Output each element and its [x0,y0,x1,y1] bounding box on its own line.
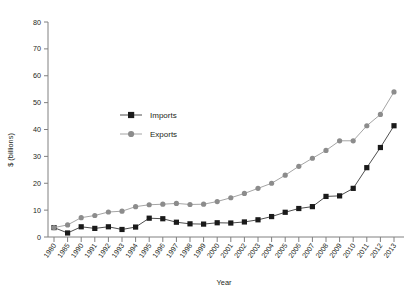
x-tick-label: 2012 [368,241,385,259]
chart-legend: ImportsExports [120,111,177,139]
y-axis: 01020304050607080 [33,18,48,242]
data-point-exports [378,112,383,117]
x-tick-label: 2008 [314,241,331,259]
data-point-exports [133,204,138,209]
data-point-exports [92,213,97,218]
data-point-exports [364,123,369,128]
y-tick-label: 10 [33,206,41,215]
y-tick-label: 0 [37,233,41,242]
data-point-imports [79,224,84,229]
data-point-exports [283,173,288,178]
data-point-exports [147,202,152,207]
x-tick-label: 1997 [164,241,181,259]
data-point-imports [160,216,165,221]
x-tick-label: 2003 [246,241,263,259]
data-point-exports [119,209,124,214]
legend-marker-exports [128,131,134,137]
series-line-exports [54,92,394,228]
y-axis-title: $ (billions) [6,133,15,167]
x-tick-label: 1992 [96,241,113,259]
data-point-exports [174,201,179,206]
data-point-imports [119,227,124,232]
imports-exports-line-chart: 01020304050607080 1980198519901991199219… [0,0,410,290]
data-point-exports [310,156,315,161]
x-tick-label: 2010 [341,241,358,259]
data-point-imports [296,206,301,211]
data-point-imports [92,226,97,231]
data-point-imports [187,221,192,226]
x-tick-label: 2011 [355,241,371,259]
data-point-imports [174,220,179,225]
data-point-exports [201,202,206,207]
x-tick-label: 1995 [137,241,154,259]
data-point-exports [323,148,328,153]
data-point-imports [133,224,138,229]
x-tick-label: 1998 [178,241,195,259]
data-point-imports [269,214,274,219]
data-point-exports [255,186,260,191]
y-tick-label: 80 [33,18,41,27]
data-point-exports [187,202,192,207]
x-tick-label: 2009 [327,241,344,259]
x-tick-label: 2005 [273,241,290,259]
data-point-imports [242,219,247,224]
y-tick-label: 20 [33,179,41,188]
data-point-exports [242,191,247,196]
data-point-exports [269,181,274,186]
y-tick-label: 70 [33,44,41,53]
x-tick-label: 2013 [382,241,399,259]
data-point-imports [323,194,328,199]
x-tick-label: 2006 [286,241,303,259]
data-point-imports [378,145,383,150]
data-point-imports [106,224,111,229]
x-tick-label: 1990 [69,241,86,259]
chart-container: 01020304050607080 1980198519901991199219… [0,0,410,290]
data-point-exports [65,222,70,227]
plot-series [51,89,396,235]
data-point-exports [337,138,342,143]
legend-label-exports: Exports [150,130,177,139]
x-tick-label: 2002 [232,241,249,259]
data-point-exports [228,195,233,200]
data-point-exports [160,202,165,207]
y-tick-label: 50 [33,98,41,107]
data-point-exports [79,215,84,220]
legend-label-imports: Imports [150,111,177,120]
y-tick-label: 30 [33,152,41,161]
y-tick-label: 40 [33,125,41,134]
x-tick-label: 2004 [259,241,276,259]
data-point-imports [337,193,342,198]
data-point-exports [106,209,111,214]
data-point-imports [351,186,356,191]
data-point-imports [283,210,288,215]
x-tick-label: 1999 [191,241,208,259]
data-point-imports [147,216,152,221]
x-tick-label: 2000 [205,241,222,259]
x-axis-title: Year [217,278,232,287]
data-point-imports [364,165,369,170]
data-point-imports [228,220,233,225]
legend-marker-imports [128,112,134,118]
x-tick-label: 1980 [42,241,59,259]
x-tick-label: 1993 [110,241,127,259]
x-tick-label: 2001 [218,241,235,259]
x-axis: 1980198519901991199219931994199519961997… [42,237,404,260]
data-point-imports [310,204,315,209]
data-point-exports [296,164,301,169]
data-point-exports [351,138,356,143]
y-tick-label: 60 [33,71,41,80]
data-point-imports [215,220,220,225]
data-point-exports [215,199,220,204]
data-point-imports [65,230,70,235]
x-tick-label: 1994 [123,241,140,259]
series-line-imports [54,126,394,233]
x-tick-label: 2007 [300,241,317,259]
data-point-imports [391,123,396,128]
data-point-exports [51,225,56,230]
x-tick-label: 1991 [82,241,99,259]
x-tick-label: 1985 [55,241,72,259]
x-tick-label: 1996 [150,241,167,259]
data-point-imports [255,217,260,222]
data-point-imports [201,222,206,227]
data-point-exports [391,89,396,94]
